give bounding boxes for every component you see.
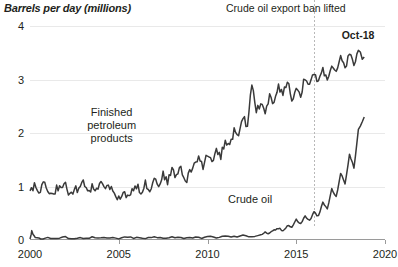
x-axis-tick-label: 2015 [284,248,308,260]
y-axis-tick-label: 4 [8,20,24,32]
y-axis-tick-label: 3 [8,74,24,86]
annotation-last-point: Oct-18 [342,29,375,41]
y-axis-tick-label: 0 [8,234,24,246]
chart-container: Barrels per day (millions) 0123420002005… [0,0,398,267]
x-axis-tick-mark [296,240,297,244]
x-axis-tick-label: 2005 [107,248,131,260]
plot-area: 0123420002005201020152020Finished petrol… [30,26,385,240]
x-axis-tick-mark [119,240,120,244]
x-axis-tick-mark [385,240,386,244]
series-label-crude-oil: Crude oil [210,193,290,206]
x-axis-tick-mark [208,240,209,244]
x-axis-tick-label: 2000 [18,248,42,260]
annotation-export-ban-lifted: Crude oil export ban lifted [226,2,346,14]
series-label-finished-petroleum-products: Finished petroleum products [72,106,152,145]
y-axis-tick-label: 1 [8,181,24,193]
x-axis-tick-label: 2010 [195,248,219,260]
y-axis-tick-label: 2 [8,127,24,139]
x-axis-tick-label: 2020 [373,248,397,260]
chart-axis-title: Barrels per day (millions) [4,2,131,14]
